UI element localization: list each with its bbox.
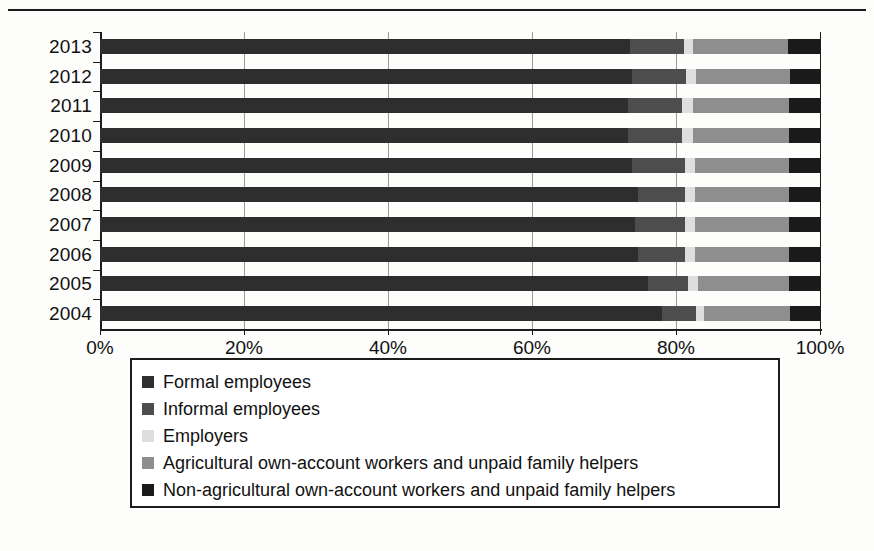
bar-segment[interactable] [632, 158, 685, 173]
bar-segment[interactable] [789, 187, 820, 202]
bar-segment[interactable] [100, 187, 638, 202]
legend-label: Formal employees [163, 372, 311, 392]
y-axis-label-2011: 2011 [18, 96, 92, 115]
legend-item[interactable]: Informal employees [142, 396, 778, 422]
legend-item[interactable]: Agricultural own-account workers and unp… [142, 450, 778, 476]
x-axis-label: 100% [775, 338, 865, 358]
legend-label: Informal employees [163, 399, 320, 419]
bar-segment[interactable] [100, 69, 632, 84]
x-axis-line [100, 329, 822, 331]
bar-2011[interactable] [100, 98, 820, 113]
bar-segment[interactable] [789, 98, 820, 113]
plot-area [100, 32, 820, 329]
stacked-bar-chart: 0%20%40%60%80%100% 201320122011201020092… [0, 18, 874, 348]
bar-2007[interactable] [100, 217, 820, 232]
y-axis-label-2012: 2012 [18, 67, 92, 86]
y-axis-label-2005: 2005 [18, 274, 92, 293]
legend-swatch-icon [142, 484, 154, 496]
bar-segment[interactable] [695, 187, 789, 202]
bar-segment[interactable] [662, 306, 696, 321]
bar-segment[interactable] [100, 158, 632, 173]
bar-segment[interactable] [100, 247, 638, 262]
bar-segment[interactable] [684, 39, 693, 54]
bar-segment[interactable] [685, 187, 695, 202]
legend-item[interactable]: Employers [142, 423, 778, 449]
y-axis-label-2009: 2009 [18, 156, 92, 175]
bar-segment[interactable] [693, 128, 789, 143]
x-tick-0pct [100, 329, 101, 335]
x-tick-20pct [244, 329, 245, 335]
x-tick-80pct [676, 329, 677, 335]
bar-segment[interactable] [695, 247, 789, 262]
bar-segment[interactable] [628, 128, 683, 143]
legend-swatch-icon [142, 457, 154, 469]
gridline-100pct [820, 32, 821, 329]
bar-segment[interactable] [685, 247, 694, 262]
bar-segment[interactable] [789, 217, 820, 232]
bar-segment[interactable] [790, 69, 820, 84]
bar-segment[interactable] [100, 39, 630, 54]
bar-segment[interactable] [628, 98, 682, 113]
bar-segment[interactable] [635, 217, 685, 232]
bar-segment[interactable] [790, 306, 820, 321]
bar-2009[interactable] [100, 158, 820, 173]
bar-segment[interactable] [682, 128, 693, 143]
bar-segment[interactable] [100, 306, 662, 321]
bar-2013[interactable] [100, 39, 820, 54]
bar-segment[interactable] [698, 276, 789, 291]
bar-segment[interactable] [788, 39, 820, 54]
x-axis-label: 80% [631, 338, 721, 358]
y-axis-label-2013: 2013 [18, 37, 92, 56]
x-tick-60pct [532, 329, 533, 335]
bar-segment[interactable] [696, 306, 704, 321]
bar-segment[interactable] [695, 158, 789, 173]
bar-segment[interactable] [630, 39, 684, 54]
x-axis-label: 40% [343, 338, 433, 358]
chart-legend: Formal employeesInformal employeesEmploy… [130, 358, 780, 508]
x-axis-label: 60% [487, 338, 577, 358]
bar-segment[interactable] [704, 306, 790, 321]
bar-segment[interactable] [688, 276, 698, 291]
x-tick-40pct [388, 329, 389, 335]
bar-segment[interactable] [685, 158, 695, 173]
y-axis-label-2004: 2004 [18, 304, 92, 323]
bar-segment[interactable] [693, 39, 788, 54]
bar-segment[interactable] [696, 69, 790, 84]
bar-segment[interactable] [632, 69, 686, 84]
bar-segment[interactable] [100, 217, 635, 232]
bar-segment[interactable] [648, 276, 688, 291]
x-axis-label: 20% [199, 338, 289, 358]
bar-segment[interactable] [638, 247, 686, 262]
bar-segment[interactable] [638, 187, 685, 202]
legend-item[interactable]: Formal employees [142, 369, 778, 395]
bar-segment[interactable] [789, 276, 820, 291]
page-canvas: 0%20%40%60%80%100% 201320122011201020092… [0, 0, 874, 551]
bar-2006[interactable] [100, 247, 820, 262]
bar-segment[interactable] [682, 98, 694, 113]
bar-segment[interactable] [789, 158, 820, 173]
bar-segment[interactable] [685, 217, 695, 232]
bar-2005[interactable] [100, 276, 820, 291]
bar-2012[interactable] [100, 69, 820, 84]
bar-segment[interactable] [100, 128, 628, 143]
y-axis-label-2010: 2010 [18, 126, 92, 145]
bar-segment[interactable] [100, 98, 628, 113]
legend-label: Agricultural own-account workers and unp… [163, 453, 638, 473]
legend-swatch-icon [142, 376, 154, 388]
bar-segment[interactable] [789, 247, 820, 262]
bar-segment[interactable] [686, 69, 696, 84]
bar-2010[interactable] [100, 128, 820, 143]
x-tick-100pct [820, 329, 821, 335]
legend-item[interactable]: Non-agricultural own-account workers and… [142, 477, 778, 503]
bar-segment[interactable] [695, 217, 789, 232]
legend-swatch-icon [142, 430, 154, 442]
bar-segment[interactable] [100, 276, 648, 291]
bar-2004[interactable] [100, 306, 820, 321]
page-top-rule [8, 9, 866, 11]
bar-2008[interactable] [100, 187, 820, 202]
bar-segment[interactable] [789, 128, 820, 143]
y-axis-label-2007: 2007 [18, 215, 92, 234]
y-axis-label-2008: 2008 [18, 185, 92, 204]
bar-segment[interactable] [693, 98, 789, 113]
legend-label: Non-agricultural own-account workers and… [163, 480, 675, 500]
